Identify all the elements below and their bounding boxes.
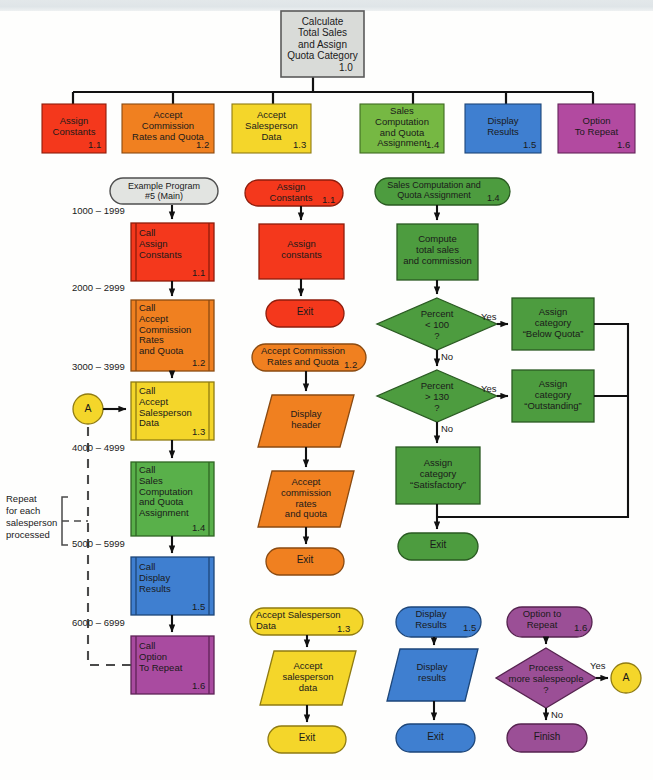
sub14-decision-1-no: No <box>441 352 453 362</box>
hierarchy-connectors <box>73 77 593 104</box>
sub16-decision-no: No <box>551 710 563 720</box>
hierarchy-node-1-5-ref: 1.5 <box>523 140 536 150</box>
flowchart-canvas: Calculate Total Sales and Assign Quota C… <box>0 0 653 780</box>
sub14-decision-1-yes: Yes <box>481 312 497 322</box>
hierarchy-node-1-0-ref: 1.0 <box>339 63 353 73</box>
sub16-connector-a-shape[interactable] <box>611 663 641 693</box>
main-step-1-6-ref: 1.6 <box>192 681 205 691</box>
sub14-exit-shape[interactable] <box>398 533 478 560</box>
hierarchy-node-1-3-ref: 1.3 <box>293 140 306 150</box>
sub12-display-header-shape[interactable] <box>258 395 354 447</box>
sub14-decision-2-no: No <box>441 424 453 434</box>
main-step-1-4-ref: 1.4 <box>192 523 205 533</box>
hierarchy-node-1-4-ref: 1.4 <box>426 140 439 150</box>
hierarchy-node-1-2-ref: 1.2 <box>196 140 209 150</box>
sub12-start-ref: 1.2 <box>344 360 357 370</box>
sub14-assign-outstanding-shape[interactable] <box>512 370 594 422</box>
sub13-exit-shape[interactable] <box>268 726 346 753</box>
sub12-exit-shape[interactable] <box>266 548 344 575</box>
sub11-process-shape[interactable] <box>259 224 344 279</box>
sub12-accept-rates-shape[interactable] <box>258 471 354 527</box>
main-step-1-5-ref: 1.5 <box>192 602 205 612</box>
main-step-1-3-ref: 1.3 <box>192 427 205 437</box>
sub16-decision-shape[interactable] <box>496 648 596 708</box>
sub16-decision-yes: Yes <box>590 661 606 671</box>
main-range-3000: 3000 – 3999 <box>72 362 125 372</box>
main-range-2000: 2000 – 2999 <box>72 283 125 293</box>
sub15-display-shape[interactable] <box>387 649 478 701</box>
sub14-start-ref: 1.4 <box>487 194 500 203</box>
main-range-5000: 5000 – 5999 <box>72 539 125 549</box>
sub14-decision-1-shape[interactable] <box>377 298 497 350</box>
sub11-start-ref: 1.1 <box>322 195 335 205</box>
main-step-1-2-ref: 1.2 <box>192 358 205 368</box>
main-range-4000: 4000 – 4999 <box>72 443 125 453</box>
sub14-process-shape[interactable] <box>397 224 478 280</box>
main-step-1-1-ref: 1.1 <box>192 268 205 278</box>
hierarchy-node-1-6-ref: 1.6 <box>617 140 630 150</box>
main-range-6000: 6000 – 6999 <box>72 618 125 628</box>
main-terminal-shape[interactable] <box>110 178 218 204</box>
main-range-1000: 1000 – 1999 <box>72 206 125 216</box>
sub14-decision-2-shape[interactable] <box>377 370 497 422</box>
sub14-decision-2-yes: Yes <box>481 384 497 394</box>
hierarchy-node-1-1-ref: 1.1 <box>88 140 101 150</box>
sub14-assign-below-shape[interactable] <box>512 298 594 350</box>
sub16-finish-shape[interactable] <box>507 724 587 752</box>
sub16-start-ref: 1.6 <box>574 623 587 633</box>
sub15-exit-shape[interactable] <box>396 724 475 752</box>
sub11-exit-shape[interactable] <box>266 300 344 327</box>
sub13-start-ref: 1.3 <box>337 624 350 634</box>
flowchart-shapes <box>0 0 653 780</box>
sub13-accept-shape[interactable] <box>260 651 356 705</box>
main-connector-a-shape[interactable] <box>73 394 103 424</box>
sub14-assign-satisfactory-shape[interactable] <box>396 447 480 504</box>
sub15-start-ref: 1.5 <box>463 623 476 633</box>
